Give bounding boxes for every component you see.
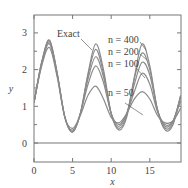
y-tick-label: 1 [22, 101, 27, 112]
y-tick-label: 3 [22, 27, 27, 38]
leader-line [81, 39, 92, 50]
annotation-label: n = 50 [108, 87, 134, 98]
y-axis-label: y [8, 83, 14, 94]
annotation-label: n = 200 [108, 46, 139, 57]
y-tick-label: 0 [22, 138, 27, 149]
x-tick-label: 15 [145, 165, 155, 176]
annotation-label: n = 100 [108, 58, 139, 69]
x-tick-label: 0 [32, 165, 37, 176]
annotation-label: n = 400 [108, 34, 139, 45]
x-tick-label: 10 [106, 165, 116, 176]
y-tick-label: 2 [22, 64, 27, 75]
annotation-label: Exact [57, 28, 80, 39]
x-axis-label: x [109, 176, 115, 187]
line-chart: 0510150123xy Exactn = 400n = 200n = 100n… [0, 0, 188, 188]
x-tick-label: 5 [70, 165, 75, 176]
